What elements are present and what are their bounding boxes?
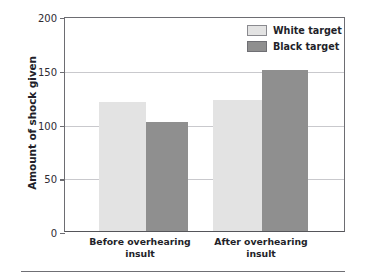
y-tick-label-200: 200 [38,13,57,24]
x-axis-group-label-after-line2: insult [199,248,323,260]
legend-item-white-target: White target [247,25,342,36]
bar-before-black-target [146,122,188,231]
x-axis-group-label-after: After overhearing insult [199,236,323,259]
legend-item-black-target: Black target [247,41,342,52]
bar-before-white-target [99,102,146,231]
y-tick-mark-100 [60,126,65,127]
bottom-divider-rule [21,271,345,272]
x-axis-group-label-before-line2: insult [78,248,202,260]
y-tick-mark-200 [60,18,65,19]
y-tick-label-0: 0 [51,228,57,239]
x-axis-group-label-after-line1: After overhearing [199,236,323,248]
y-tick-mark-0 [60,233,65,234]
y-tick-label-150: 150 [38,66,57,77]
gridline-200 [65,18,344,19]
x-axis-group-label-before-line1: Before overhearing [78,236,202,248]
y-tick-label-100: 100 [38,120,57,131]
y-tick-mark-50 [60,179,65,180]
legend-label-black-target: Black target [273,41,339,52]
x-axis-group-label-before: Before overhearing insult [78,236,202,259]
y-tick-label-50: 50 [44,174,57,185]
bar-after-black-target [262,70,308,231]
bar-chart-figure: Amount of shock given 200 150 100 50 0 W… [0,0,371,280]
y-axis-title: Amount of shock given [26,18,38,228]
legend-swatch-icon-black-target [247,41,267,52]
y-tick-mark-150 [60,72,65,73]
legend-label-white-target: White target [273,25,342,36]
bar-after-white-target [213,100,262,231]
legend: White target Black target [247,25,342,52]
legend-swatch-icon-white-target [247,25,267,36]
